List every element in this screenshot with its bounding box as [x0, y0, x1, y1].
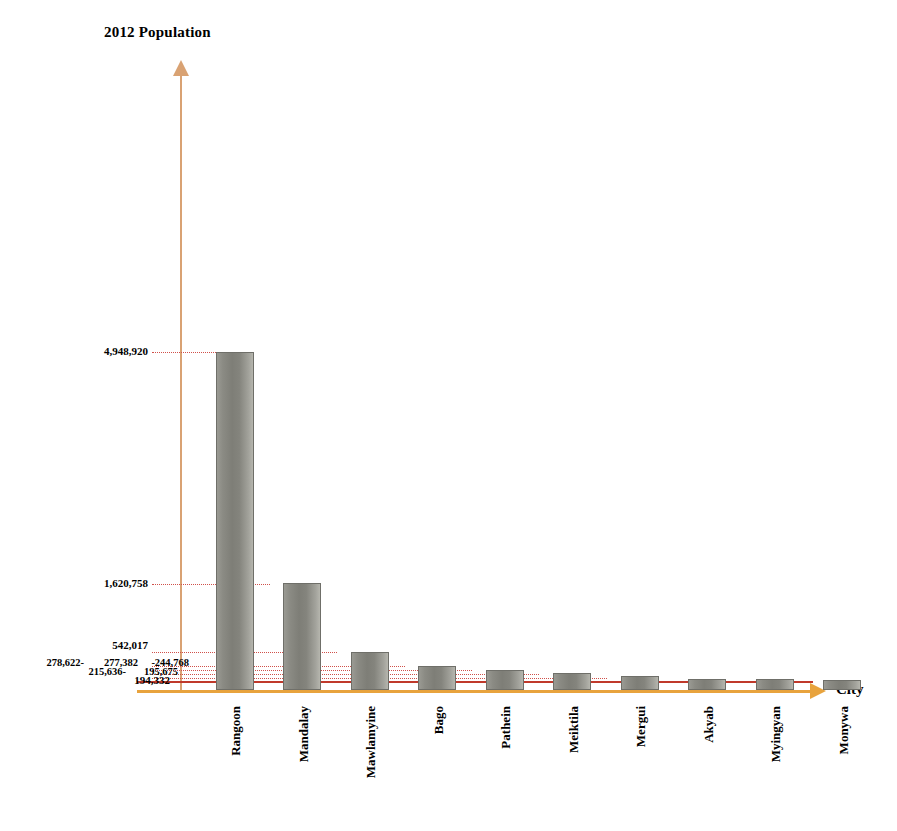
x-tick-label-pathein: Pathein — [498, 706, 514, 749]
x-tick-label-myingyan: Myingyan — [768, 706, 784, 762]
x-tick-label-akyab: Akyab — [701, 706, 717, 743]
bar-meiktila[interactable] — [553, 673, 591, 690]
bar-myingyan[interactable] — [756, 679, 794, 690]
bar-mawlamyine[interactable] — [351, 652, 389, 690]
x-tick-label-rangoon: Rangoon — [228, 706, 244, 756]
bar-monywa[interactable] — [823, 680, 861, 690]
bar-pathein[interactable] — [486, 670, 524, 690]
bar-mandalay[interactable] — [283, 583, 321, 690]
plot-area — [182, 72, 813, 690]
x-tick-label-meiktila: Meiktila — [566, 706, 582, 753]
y-tick-label-1: 1,620,758 — [78, 577, 148, 589]
bar-mergui[interactable] — [621, 676, 659, 690]
y-tick-label-2: 542,017 — [86, 639, 148, 651]
bar-bago[interactable] — [418, 666, 456, 690]
bar-akyab[interactable] — [688, 679, 726, 690]
x-tick-label-mergui: Mergui — [633, 706, 649, 747]
x-tick-label-monywa: Monywa — [836, 706, 852, 754]
chart-title: 2012 Population — [104, 24, 211, 41]
x-tick-label-mandalay: Mandalay — [296, 706, 312, 762]
x-axis-line — [137, 690, 813, 693]
x-tick-label-bago: Bago — [431, 706, 447, 734]
bar-rangoon[interactable] — [216, 352, 254, 690]
x-tick-label-mawlamyine: Mawlamyine — [363, 706, 379, 778]
y-tick-label-8: 194,332 — [112, 674, 170, 686]
bar-chart: 2012 Population City 4,948,920 1,620,758… — [0, 0, 897, 831]
y-tick-label-0: 4,948,920 — [78, 345, 148, 357]
